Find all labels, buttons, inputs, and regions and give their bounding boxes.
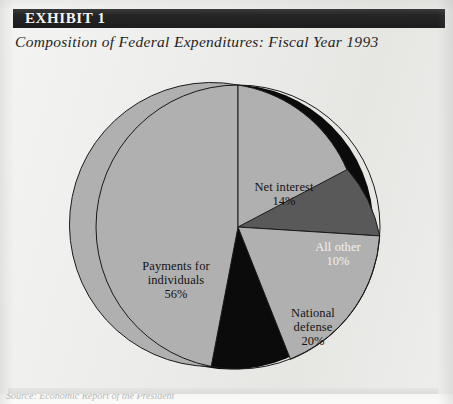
exhibit-subtitle: Composition of Federal Expenditures: Fis… bbox=[15, 33, 378, 51]
pie-label-net-interest-name: Net interest bbox=[254, 180, 313, 194]
pie-label-all-other-name: All other bbox=[315, 240, 361, 254]
pie-label-national-defense: National defense 20% bbox=[268, 306, 358, 348]
pie-chart-svg bbox=[0, 58, 453, 383]
pie-chart: Net interest 14% All other 10% National … bbox=[0, 58, 453, 383]
pie-label-all-other: All other 10% bbox=[296, 240, 380, 268]
pie-label-net-interest: Net interest 14% bbox=[236, 180, 332, 208]
source-note-text: Source: Economic Report of the President bbox=[6, 394, 174, 401]
pie-label-payments-value: 56% bbox=[118, 287, 234, 301]
source-note-strip: Source: Economic Report of the President bbox=[0, 394, 453, 404]
pie-label-national-defense-line1: National bbox=[291, 306, 335, 320]
pie-label-payments-line2: individuals bbox=[118, 273, 234, 287]
pie-label-payments-for-individuals: Payments for individuals 56% bbox=[118, 259, 234, 301]
exhibit-header-bar: EXHIBIT 1 bbox=[13, 9, 445, 28]
pie-label-all-other-value: 10% bbox=[296, 254, 380, 268]
pie-label-net-interest-value: 14% bbox=[236, 194, 332, 208]
pie-label-national-defense-value: 20% bbox=[268, 334, 358, 348]
pie-slice-payments-for-individuals[interactable] bbox=[69, 83, 238, 367]
exhibit-page: EXHIBIT 1 Composition of Federal Expendi… bbox=[0, 0, 453, 404]
exhibit-number-label: EXHIBIT 1 bbox=[25, 10, 106, 27]
pie-label-payments-line1: Payments for bbox=[142, 259, 210, 273]
pie-label-national-defense-line2: defense bbox=[268, 320, 358, 334]
